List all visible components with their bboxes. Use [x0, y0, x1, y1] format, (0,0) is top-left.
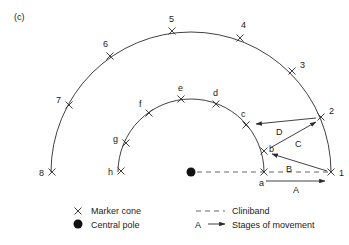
- stage-label-b: B: [286, 164, 292, 174]
- marker-cone-8: 8: [39, 168, 56, 178]
- marker-label-d: d: [213, 88, 218, 98]
- stage-arrow-a: A: [266, 181, 325, 195]
- legend-item-central-pole: Central pole: [74, 220, 140, 231]
- central-pole-dot: [187, 168, 196, 177]
- legend-label-stages-of-movement: Stages of movement: [232, 220, 315, 230]
- marker-cone-3: 3: [289, 60, 306, 75]
- marker-cone-5: 5: [169, 14, 176, 35]
- marker-label-3: 3: [300, 60, 305, 70]
- marker-cone-h: h: [108, 167, 125, 177]
- marker-label-b: b: [269, 144, 274, 154]
- marker-label-1: 1: [339, 168, 344, 178]
- marker-label-4: 4: [241, 20, 246, 30]
- stage-arrow-group: A B C D: [256, 118, 327, 195]
- stage-label-c: C: [295, 139, 302, 149]
- stage-arrow-b: B: [272, 154, 327, 174]
- marker-cone-c: c: [241, 109, 250, 129]
- marker-cone-b: b: [261, 144, 275, 155]
- outer-marker-group: 1 2 3 4 5 6 7: [39, 14, 344, 178]
- legend-item-cliniband: Cliniband: [196, 206, 270, 216]
- marker-label-6: 6: [103, 39, 108, 49]
- filled-circle-icon: [74, 220, 83, 229]
- marker-cone-4: 4: [237, 20, 247, 42]
- stage-label-a: A: [293, 185, 299, 195]
- figure-panel-c: (c) 1 2: [0, 0, 349, 245]
- legend-item-marker-cone: Marker cone: [75, 206, 142, 216]
- marker-label-c: c: [241, 109, 246, 119]
- marker-label-7: 7: [56, 95, 61, 105]
- marker-label-h: h: [108, 167, 113, 177]
- marker-cone-2: 2: [318, 106, 335, 121]
- marker-cone-a: a: [259, 169, 268, 189]
- legend-prefix-stage: A: [195, 220, 201, 230]
- stage-label-d: D: [276, 127, 283, 137]
- marker-label-e: e: [178, 83, 183, 93]
- marker-label-a: a: [259, 178, 264, 188]
- marker-label-8: 8: [39, 168, 44, 178]
- legend: Marker cone Central pole Cliniband A Sta…: [74, 206, 316, 230]
- diagram-canvas: 1 2 3 4 5 6 7: [0, 0, 349, 245]
- cross-icon: [75, 208, 82, 215]
- outer-arc: [51, 32, 331, 172]
- legend-label-central-pole: Central pole: [91, 220, 140, 230]
- marker-cone-1: 1: [328, 168, 345, 178]
- legend-item-stages-of-movement: A Stages of movement: [195, 220, 315, 230]
- marker-label-2: 2: [329, 106, 334, 116]
- marker-cone-f: f: [139, 99, 153, 117]
- legend-label-cliniband: Cliniband: [232, 206, 270, 216]
- legend-label-marker-cone: Marker cone: [91, 206, 141, 216]
- marker-label-g: g: [113, 134, 118, 144]
- marker-label-5: 5: [169, 14, 174, 24]
- marker-label-f: f: [139, 99, 142, 109]
